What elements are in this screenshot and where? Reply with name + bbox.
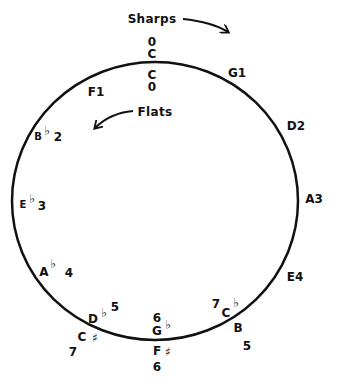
key-fs-note: F — [153, 345, 161, 357]
key-b-note: B — [233, 322, 242, 334]
key-cs-note: C — [78, 331, 87, 343]
c-sharps-note: C — [148, 48, 157, 60]
sharps-label: Sharps — [128, 13, 177, 25]
key-db-count: 5 — [111, 301, 119, 313]
key-gb-count: 6 — [153, 312, 161, 324]
flat-icon: ♭ — [101, 307, 107, 319]
sharps-arrow-icon — [183, 19, 228, 32]
sharp-icon: ♯ — [165, 346, 171, 358]
key-d: D2 — [287, 120, 305, 132]
flat-icon: ♭ — [233, 297, 239, 309]
key-g: G1 — [228, 67, 246, 79]
key-cb-note: C — [222, 307, 231, 319]
key-eb-count: 3 — [38, 200, 46, 212]
flats-arrow-icon — [95, 111, 133, 128]
key-circle — [12, 62, 298, 340]
key-a: A3 — [305, 193, 323, 205]
key-fs-count: 6 — [153, 361, 161, 373]
key-b-count: 5 — [243, 340, 251, 352]
key-cs-count: 7 — [69, 346, 77, 358]
flat-icon: ♭ — [165, 319, 171, 331]
key-gb-note: G — [152, 325, 162, 337]
key-e: E4 — [287, 271, 304, 283]
key-cb-count: 7 — [212, 298, 220, 310]
flat-icon: ♭ — [29, 193, 35, 205]
key-bb-count: 2 — [54, 131, 62, 143]
key-f: F1 — [88, 86, 105, 98]
flat-icon: ♭ — [50, 258, 56, 270]
flats-label: Flats — [138, 106, 173, 118]
key-ab-count: 4 — [65, 267, 73, 279]
sharp-icon: ♯ — [92, 332, 98, 344]
c-flats-count: 0 — [148, 81, 156, 93]
key-ab-note: A — [39, 266, 48, 278]
key-bb-note: B — [34, 132, 42, 142]
key-eb-note: E — [20, 200, 27, 210]
key-db-note: D — [88, 313, 98, 325]
flat-icon: ♭ — [44, 125, 50, 137]
